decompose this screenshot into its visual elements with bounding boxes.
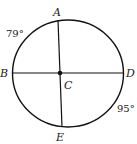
arc-ab-measure: 79° <box>6 28 24 39</box>
label-a: A <box>52 6 61 19</box>
circle-diagram: A B C D E 79° 95° <box>0 0 137 144</box>
center-point <box>58 71 63 76</box>
label-e: E <box>55 131 64 144</box>
arc-de-measure: 95° <box>117 103 135 114</box>
label-c: C <box>64 79 73 92</box>
label-d: D <box>125 67 135 80</box>
label-b: B <box>0 67 8 80</box>
